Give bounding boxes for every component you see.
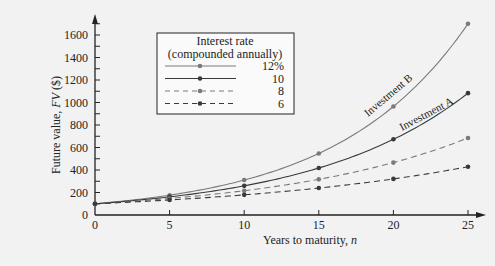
data-point — [391, 104, 396, 109]
x-tick-label: 15 — [313, 218, 325, 232]
x-axis-label: Years to maturity, n — [263, 233, 357, 247]
legend: Interest rate (compounded annually) 12%1… — [157, 33, 294, 114]
chart-canvas: 020040060080010001200140016000510152025 … — [0, 0, 495, 266]
y-tick-label: 200 — [70, 186, 88, 200]
legend-marker — [198, 76, 203, 81]
data-point — [466, 91, 471, 96]
data-point — [317, 177, 322, 182]
data-point — [242, 178, 247, 183]
legend-marker — [198, 89, 203, 94]
series-line-8 — [95, 138, 468, 204]
data-point — [317, 151, 322, 156]
x-tick-label: 25 — [462, 218, 474, 232]
annotations: Investment BInvestment A — [362, 71, 455, 132]
y-tick-label: 400 — [70, 163, 88, 177]
data-point — [391, 177, 396, 182]
y-tick-label: 600 — [70, 141, 88, 155]
y-tick-label: 1200 — [64, 73, 88, 87]
y-tick-label: 1000 — [64, 96, 88, 110]
x-tick-label: 10 — [238, 218, 250, 232]
legend-marker — [198, 101, 203, 106]
legend-marker — [198, 64, 203, 69]
data-point — [391, 160, 396, 165]
data-point — [317, 186, 322, 191]
x-tick-label: 0 — [92, 218, 98, 232]
data-point — [93, 201, 98, 206]
data-point — [242, 193, 247, 198]
y-tick-label: 0 — [82, 208, 88, 222]
y-axis-arrow-icon — [92, 14, 98, 24]
legend-label: 6 — [278, 97, 284, 111]
data-point — [242, 184, 247, 189]
y-tick-label: 1400 — [64, 51, 88, 65]
y-tick-label: 800 — [70, 118, 88, 132]
x-tick-label: 5 — [167, 218, 173, 232]
data-point — [466, 164, 471, 169]
x-tick-label: 20 — [387, 218, 399, 232]
y-axis-label: Future value, FV ($) — [49, 76, 63, 174]
legend-title: Interest rate — [197, 34, 254, 48]
data-point — [242, 188, 247, 193]
data-point — [391, 137, 396, 142]
y-tick-label: 1600 — [64, 28, 88, 42]
annotation-investment-a: Investment A — [397, 94, 455, 132]
future-value-chart: 020040060080010001200140016000510152025 … — [0, 0, 495, 266]
data-point — [466, 21, 471, 26]
data-point — [466, 136, 471, 141]
data-point — [167, 198, 172, 203]
data-point — [317, 166, 322, 171]
x-axis-arrow-icon — [476, 212, 486, 218]
